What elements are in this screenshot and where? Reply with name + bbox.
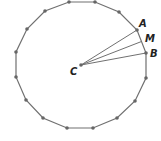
label-a: A: [138, 18, 147, 29]
label-b: B: [150, 48, 158, 59]
polygon-diagram: C A M B: [0, 0, 161, 141]
segment-cm: [81, 42, 142, 66]
vertex-dots: [14, 0, 148, 130]
center-dot: [79, 63, 83, 67]
vertex-dot: [67, 0, 71, 4]
label-center: C: [70, 66, 78, 77]
vertex-dot: [117, 10, 121, 14]
vertex-dot: [14, 75, 18, 79]
radius-segments: [81, 30, 146, 65]
vertex-dot: [41, 116, 45, 120]
label-m: M: [145, 33, 155, 44]
vertex-dot: [93, 0, 97, 4]
vertex-dot: [144, 76, 148, 80]
vertex-dot: [115, 116, 119, 120]
vertex-dot: [24, 98, 28, 102]
vertex-dot: [133, 99, 137, 103]
vertex-dot: [144, 51, 148, 55]
vertex-dot: [91, 126, 95, 130]
vertex-dot: [43, 9, 47, 13]
vertex-dot: [65, 126, 69, 130]
vertex-dot: [14, 50, 18, 54]
vertex-dot: [25, 27, 29, 31]
